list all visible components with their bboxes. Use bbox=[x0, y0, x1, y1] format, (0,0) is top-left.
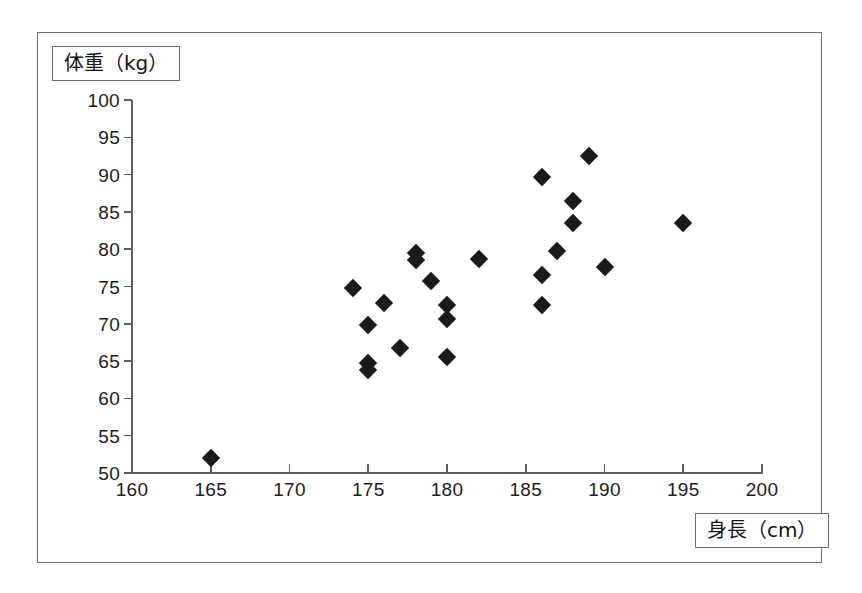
data-point-marker bbox=[674, 214, 692, 232]
x-tick-label: 165 bbox=[181, 480, 241, 499]
y-tick-label: 75 bbox=[76, 278, 120, 297]
y-tick-mark bbox=[124, 360, 132, 362]
x-tick-label: 185 bbox=[496, 480, 556, 499]
y-tick-mark bbox=[124, 137, 132, 139]
data-point-marker bbox=[580, 147, 598, 165]
y-tick-label: 80 bbox=[76, 240, 120, 259]
data-point-marker bbox=[469, 250, 487, 268]
x-tick-label: 175 bbox=[338, 480, 398, 499]
y-tick-label: 65 bbox=[76, 352, 120, 371]
x-tick-label: 170 bbox=[260, 480, 320, 499]
y-tick-label: 60 bbox=[76, 389, 120, 408]
y-tick-mark bbox=[124, 211, 132, 213]
y-tick-label: 85 bbox=[76, 203, 120, 222]
y-tick-label: 95 bbox=[76, 128, 120, 147]
data-point-marker bbox=[391, 338, 409, 356]
data-point-marker bbox=[532, 168, 550, 186]
data-point-marker bbox=[532, 296, 550, 314]
data-point-marker bbox=[595, 258, 613, 276]
x-axis-title: 身長（cm） bbox=[695, 513, 829, 548]
x-tick-label: 180 bbox=[417, 480, 477, 499]
plot-area bbox=[132, 100, 762, 473]
data-point-marker bbox=[548, 242, 566, 260]
y-tick-mark bbox=[124, 174, 132, 176]
y-tick-mark bbox=[124, 286, 132, 288]
scatter-chart-figure: 50556065707580859095100 1601651701751801… bbox=[0, 0, 862, 593]
y-axis-title: 体重（kg） bbox=[52, 46, 180, 81]
y-tick-mark bbox=[124, 398, 132, 400]
data-point-marker bbox=[343, 279, 361, 297]
data-point-marker bbox=[438, 309, 456, 327]
data-point-marker bbox=[438, 347, 456, 365]
data-point-marker bbox=[422, 272, 440, 290]
y-tick-label: 70 bbox=[76, 315, 120, 334]
y-tick-label: 100 bbox=[76, 91, 120, 110]
data-point-marker bbox=[202, 449, 220, 467]
x-tick-label: 160 bbox=[102, 480, 162, 499]
y-tick-mark bbox=[124, 435, 132, 437]
y-tick-label: 55 bbox=[76, 427, 120, 446]
data-point-marker bbox=[375, 294, 393, 312]
data-point-marker bbox=[564, 214, 582, 232]
x-tick-label: 200 bbox=[732, 480, 792, 499]
y-tick-mark bbox=[124, 323, 132, 325]
x-tick-label: 195 bbox=[653, 480, 713, 499]
y-tick-mark bbox=[124, 99, 132, 101]
data-point-marker bbox=[532, 265, 550, 283]
data-point-marker bbox=[564, 192, 582, 210]
data-point-marker bbox=[359, 316, 377, 334]
x-tick-label: 190 bbox=[575, 480, 635, 499]
y-tick-label: 90 bbox=[76, 166, 120, 185]
y-tick-mark bbox=[124, 248, 132, 250]
